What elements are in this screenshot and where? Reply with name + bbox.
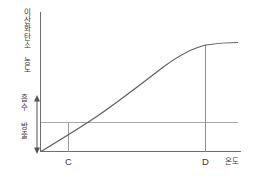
point-d-label: D (202, 156, 209, 167)
x-axis-label: 온도 (225, 157, 239, 166)
emission-label-char: 방 (21, 121, 28, 131)
y-axis-label-char: 도 (24, 65, 31, 74)
point-c-label: C (65, 156, 72, 167)
emission-label-char: 출 (21, 130, 28, 140)
co2-concentration-vs-temperature-chart: 온도 C D 이산화탄소농도흡수방출 (0, 0, 257, 176)
absorption-label-char: 흡 (21, 93, 28, 103)
absorption-label-char: 수 (21, 103, 28, 112)
y-axis-label-char: 소 (24, 41, 31, 50)
